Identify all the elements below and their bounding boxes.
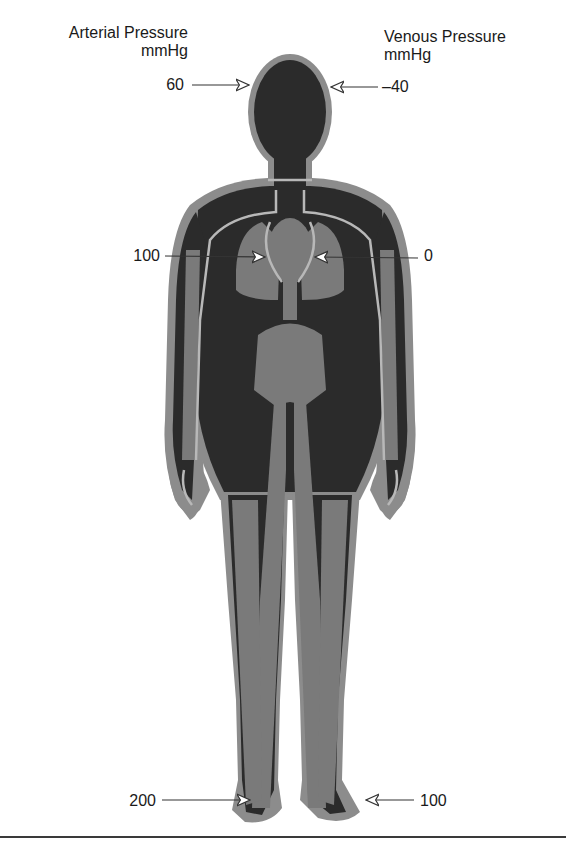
bottom-rule [0, 836, 566, 838]
body-interior [173, 60, 408, 815]
human-circulation-figure [0, 0, 566, 848]
